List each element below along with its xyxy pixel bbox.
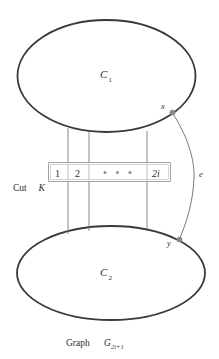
edge-e-label: e [199,169,203,179]
cut-cell-label-1: 1 [55,168,60,179]
cut-k-label-prefix: Cut [13,183,27,193]
node-x-dot [170,110,175,115]
node-x-label: x [160,101,165,111]
cut-ellipsis-dot-3 [129,171,132,174]
graph-figure-svg: C 1 C 2 x y e Cut K 1 2 2i Graph G 2i+1 [0,0,219,359]
cut-k-label-symbol: K [38,183,46,193]
cluster-c2-subscript: 2 [109,274,113,282]
cut-cell-label-last: 2i [152,168,160,179]
cluster-c2-label: C [100,266,108,278]
cut-ellipsis-dot-1 [104,171,107,174]
edge-e-curve [173,113,195,239]
graph-figure: C 1 C 2 x y e Cut K 1 2 2i Graph G 2i+1 [0,0,219,359]
figure-caption-symbol: G [104,338,111,348]
figure-caption-subscript: 2i+1 [111,343,124,350]
node-y-dot [177,237,182,242]
figure-caption-prefix: Graph [66,338,90,348]
cut-cell-label-2: 2 [75,168,80,179]
cluster-c1-subscript: 1 [109,76,113,84]
node-y-label: y [166,238,171,248]
cut-ellipsis-dot-2 [116,171,119,174]
cluster-c1-label: C [100,68,108,80]
